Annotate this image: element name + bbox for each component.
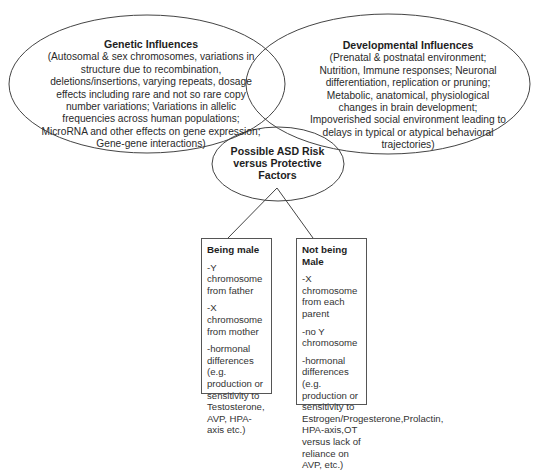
genetic-influences-body: (Autosomal & sex chromosomes, variations… (42, 51, 261, 149)
being-male-item: -X chromosome from mother (207, 302, 267, 337)
being-male-item: -hormonal differences (e.g. production o… (207, 343, 267, 436)
developmental-influences-title: Developmental Influences (308, 39, 508, 51)
not-being-male-item: -hormonal differences (e.g. production o… (302, 355, 362, 471)
developmental-influences-text: Developmental Influences (Prenatal & pos… (308, 39, 508, 152)
genetic-influences-title: Genetic Influences (40, 38, 262, 50)
being-male-title: Being male (207, 244, 267, 256)
not-being-male-item: -X chromosome from each parent (302, 273, 362, 319)
genetic-influences-text: Genetic Influences (Autosomal & sex chro… (40, 38, 262, 151)
being-male-item: -Y chromosome from father (207, 262, 267, 297)
not-being-male-item: -no Y chromosome (302, 326, 362, 349)
developmental-influences-body: (Prenatal & postnatal environment; Nutri… (310, 52, 506, 150)
branch-line-left (228, 188, 277, 238)
being-male-box: Being male -Y chromosome from father -X … (201, 238, 272, 394)
not-being-male-box: Not being Male -X chromosome from each p… (296, 238, 367, 405)
not-being-male-title: Not being Male (302, 244, 362, 267)
risk-protective-title: Possible ASD Risk versus Protective Fact… (220, 145, 335, 182)
branch-line-right (277, 188, 313, 238)
